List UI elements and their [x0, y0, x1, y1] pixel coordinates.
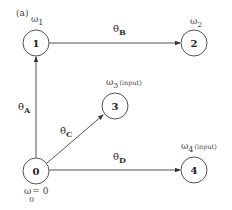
svg-text:0: 0 [33, 166, 40, 177]
svg-text:4: 4 [191, 165, 198, 176]
node-0-omega-sub: 0 [29, 195, 34, 204]
node-1-omega: ω1 [31, 14, 43, 27]
svg-text:2: 2 [191, 38, 198, 49]
node-0: 0 ω= 0 0 [23, 158, 49, 204]
edge-a: θ̇A [18, 57, 36, 158]
node-2-omega: ω2 [190, 16, 202, 29]
edge-c: θ̇C [47, 115, 103, 163]
panel-label: (a) [16, 8, 28, 18]
edge-d: θ̇D [49, 151, 180, 170]
node-4-omega: ω4(input) [181, 141, 217, 154]
node-3: 3 ω3(input) [102, 77, 142, 119]
node-2: 2 ω2 [181, 16, 207, 56]
node-4: 4 ω4(input) [181, 141, 217, 183]
edge-d-label: θ̇D [113, 151, 126, 165]
edge-b: θ̇B [49, 23, 180, 43]
edge-c-label: θ̇C [60, 125, 72, 139]
edge-b-label: θ̇B [113, 23, 126, 37]
edge-a-label: θ̇A [18, 101, 31, 115]
node-1: 1 ω1 [23, 14, 49, 56]
node-0-omega: ω= 0 [24, 186, 49, 196]
svg-text:3: 3 [112, 101, 119, 112]
svg-text:1: 1 [33, 38, 40, 49]
node-3-omega: ω3(input) [106, 77, 142, 90]
kinematic-graph: (a) θ̇A θ̇B θ̇C θ̇D 1 ω1 2 [0, 0, 232, 210]
